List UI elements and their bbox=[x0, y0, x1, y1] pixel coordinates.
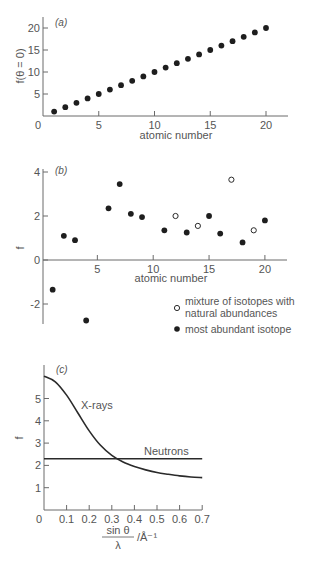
chart-b-y-label: f bbox=[14, 246, 26, 250]
data-point-filled bbox=[217, 231, 223, 237]
legend-open-label-line2: natural abundances bbox=[185, 307, 277, 319]
data-point bbox=[96, 91, 102, 97]
data-point-filled bbox=[50, 287, 56, 293]
y-tick-label: 4 bbox=[34, 166, 40, 178]
y-tick-label: 15 bbox=[28, 44, 40, 56]
data-point-filled bbox=[83, 318, 89, 324]
y-tick-label: 5 bbox=[35, 393, 41, 405]
data-point-open bbox=[229, 177, 234, 182]
chart-b: -2024 5101520 (b) f atomic number mixtur… bbox=[14, 165, 295, 335]
y-tick-label: 2 bbox=[34, 210, 40, 222]
y-tick-label: 10 bbox=[28, 66, 40, 78]
data-point bbox=[196, 52, 202, 58]
x-tick-label: 0.6 bbox=[172, 513, 187, 525]
y-tick-label: 2 bbox=[35, 459, 41, 471]
chart-b-x-label: atomic number bbox=[135, 272, 208, 284]
x-tick-label: 0.5 bbox=[149, 513, 164, 525]
x-tick-label: 5 bbox=[94, 263, 100, 275]
xray-curve bbox=[44, 376, 202, 477]
chart-b-panel-label: (b) bbox=[55, 165, 67, 176]
chart-c: 12345 00.10.20.30.40.50.60.7 (c) f X-ray… bbox=[13, 364, 210, 551]
x-tick-label: 0.1 bbox=[59, 513, 74, 525]
xray-label: X-rays bbox=[81, 399, 113, 411]
data-point-filled bbox=[262, 218, 268, 224]
data-point-filled bbox=[128, 211, 134, 217]
x-label-unit: /Å⁻¹ bbox=[137, 531, 157, 543]
chart-a-y-ticks: 5101520 bbox=[28, 22, 48, 100]
data-point bbox=[152, 69, 158, 75]
x-tick-label: 0 bbox=[35, 119, 41, 131]
data-point bbox=[74, 100, 80, 106]
legend-filled-marker-icon bbox=[174, 326, 180, 332]
data-point bbox=[174, 60, 180, 66]
data-point-filled bbox=[206, 213, 212, 219]
data-point bbox=[207, 47, 213, 53]
data-point bbox=[62, 104, 68, 110]
y-tick-label: 3 bbox=[35, 437, 41, 449]
y-tick-label: 20 bbox=[28, 22, 40, 34]
chart-c-x-ticks: 00.10.20.30.40.50.60.7 bbox=[36, 505, 210, 525]
y-tick-label: 4 bbox=[35, 415, 41, 427]
data-point bbox=[252, 30, 258, 36]
data-point-filled bbox=[61, 233, 67, 239]
chart-a-data-points bbox=[51, 25, 269, 114]
data-point bbox=[107, 87, 113, 93]
x-tick-label: 20 bbox=[259, 263, 271, 275]
data-point bbox=[129, 78, 135, 84]
data-point bbox=[230, 38, 236, 44]
chart-b-legend: mixture of isotopes with natural abundan… bbox=[174, 295, 295, 335]
figure: 5101520 05101520 (a) f(θ = 0) atomic num… bbox=[0, 0, 316, 561]
data-point-filled bbox=[117, 181, 123, 187]
chart-c-y-ticks: 12345 bbox=[35, 393, 49, 494]
data-point-open bbox=[251, 228, 256, 233]
chart-b-y-ticks: -2024 bbox=[30, 166, 48, 310]
chart-a-x-ticks: 05101520 bbox=[35, 111, 272, 131]
data-point bbox=[85, 96, 91, 102]
data-point-filled bbox=[139, 214, 145, 220]
chart-a: 5101520 05101520 (a) f(θ = 0) atomic num… bbox=[14, 17, 288, 141]
data-point bbox=[163, 65, 169, 71]
x-tick-label: 0.7 bbox=[195, 513, 210, 525]
data-point bbox=[185, 56, 191, 62]
chart-c-y-label: f bbox=[13, 436, 25, 440]
data-point bbox=[241, 34, 247, 40]
data-point-open bbox=[195, 223, 200, 228]
legend-open-marker-icon bbox=[174, 305, 179, 310]
data-point-filled bbox=[72, 237, 78, 243]
data-point-filled bbox=[161, 227, 167, 233]
x-tick-label: 20 bbox=[260, 119, 272, 131]
legend-filled-label: most abundant isotope bbox=[185, 323, 291, 335]
x-tick-label: 0.2 bbox=[82, 513, 97, 525]
chart-c-panel-label: (c) bbox=[56, 364, 68, 375]
data-point bbox=[51, 109, 57, 115]
data-point bbox=[219, 43, 225, 49]
data-point bbox=[118, 82, 124, 88]
data-point bbox=[263, 25, 269, 31]
neutron-label: Neutrons bbox=[144, 445, 189, 457]
x-label-denominator: λ bbox=[115, 539, 121, 551]
data-point-filled bbox=[106, 205, 112, 211]
x-label-numerator: sin θ bbox=[106, 524, 129, 536]
data-point-filled bbox=[240, 240, 246, 246]
data-point bbox=[140, 74, 146, 80]
chart-c-x-label: sin θ λ /Å⁻¹ bbox=[102, 524, 157, 551]
data-point-filled bbox=[184, 230, 190, 236]
data-point-open bbox=[173, 213, 178, 218]
chart-a-panel-label: (a) bbox=[55, 17, 67, 28]
legend-open-label-line1: mixture of isotopes with bbox=[185, 295, 295, 307]
x-tick-label: 5 bbox=[96, 119, 102, 131]
y-tick-label: 0 bbox=[34, 254, 40, 266]
chart-a-x-label: atomic number bbox=[140, 129, 213, 141]
y-tick-label: -2 bbox=[30, 298, 40, 310]
y-tick-label: 1 bbox=[35, 482, 41, 494]
chart-a-y-label: f(θ = 0) bbox=[14, 48, 26, 83]
x-tick-label: 0 bbox=[36, 513, 42, 525]
y-tick-label: 5 bbox=[34, 88, 40, 100]
